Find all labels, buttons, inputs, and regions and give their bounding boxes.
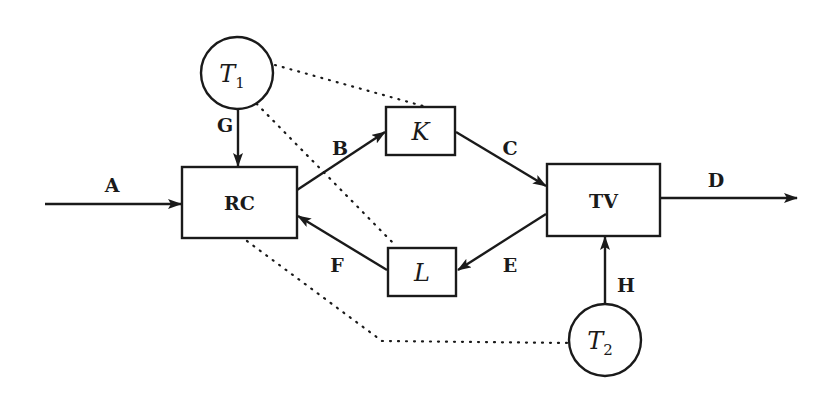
edge-b-label: B xyxy=(332,137,348,159)
edge-f-label: F xyxy=(330,254,344,276)
edge-d-label: D xyxy=(708,169,724,191)
node-t2-subscript: 2 xyxy=(603,341,613,359)
edge-g-label: G xyxy=(217,114,233,136)
node-t1-subscript: 1 xyxy=(235,74,245,92)
dotted-link-t1-k xyxy=(275,65,423,106)
edge-h-label: H xyxy=(617,274,635,296)
node-rc-label: RC xyxy=(224,192,255,214)
node-k-label: K xyxy=(411,118,432,146)
edge-c-label: C xyxy=(502,137,517,159)
edge-e-label: E xyxy=(503,254,517,276)
flow-diagram: RC TV K L T1 T2 A G B C D E F H xyxy=(0,0,837,401)
node-t2 xyxy=(569,304,641,376)
node-tv-label: TV xyxy=(589,190,619,212)
edge-c xyxy=(456,132,546,186)
node-l-label: L xyxy=(413,259,430,287)
edge-a-label: A xyxy=(104,174,120,196)
node-t1 xyxy=(201,37,273,109)
